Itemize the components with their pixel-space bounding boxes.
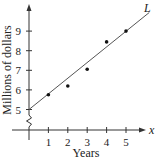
data-point (66, 84, 70, 88)
x-axis: x 12345 (12, 123, 155, 148)
data-point (105, 40, 109, 44)
y-axis-title: Millions of dollars (0, 25, 14, 115)
x-tick-label: 1 (46, 136, 52, 148)
line-label: L (143, 1, 151, 15)
data-point (85, 68, 89, 72)
x-axis-symbol: x (148, 123, 155, 137)
x-tick-label: 2 (65, 136, 71, 148)
y-axis: 56789 (16, 4, 33, 140)
y-tick-label: 7 (16, 64, 22, 76)
data-point (124, 29, 128, 33)
x-tick-label: 5 (123, 136, 129, 148)
y-axis-arrow-icon (27, 4, 32, 11)
y-tick-label: 5 (16, 104, 22, 116)
x-axis-arrow-icon (139, 128, 146, 133)
y-tick-label: 6 (16, 84, 22, 96)
y-tick-label: 8 (16, 45, 22, 57)
chart: 56789 x 12345 L Years Millions of dollar… (0, 0, 160, 162)
x-tick-label: 4 (104, 136, 110, 148)
x-axis-title: Years (73, 146, 100, 160)
y-tick-label: 9 (16, 25, 22, 37)
data-point (47, 93, 51, 97)
axis-break-icon (27, 115, 32, 140)
